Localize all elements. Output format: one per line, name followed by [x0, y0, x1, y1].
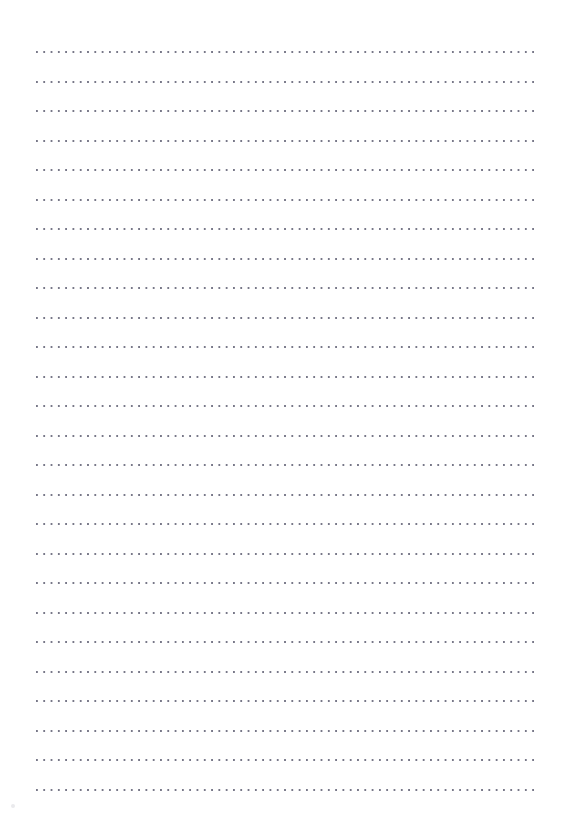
- ruled-line[interactable]: [36, 140, 536, 142]
- ruled-line[interactable]: [36, 346, 536, 348]
- ruled-line[interactable]: [36, 671, 536, 673]
- ruled-line[interactable]: [36, 376, 536, 378]
- ruled-line[interactable]: [36, 523, 536, 525]
- ruled-line[interactable]: [36, 317, 536, 319]
- ruled-line[interactable]: [36, 759, 536, 761]
- ruled-line[interactable]: [36, 405, 536, 407]
- ruled-line[interactable]: [36, 494, 536, 496]
- ruled-line[interactable]: [36, 110, 536, 112]
- ruled-line[interactable]: [36, 435, 536, 437]
- ruled-line[interactable]: [36, 287, 536, 289]
- ruled-line[interactable]: [36, 169, 536, 171]
- ruled-line[interactable]: [36, 228, 536, 230]
- ruled-line[interactable]: [36, 582, 536, 584]
- ruled-line[interactable]: [36, 81, 536, 83]
- ruled-line[interactable]: [36, 700, 536, 702]
- writing-paper-page: [0, 0, 572, 827]
- ruled-line[interactable]: [36, 612, 536, 614]
- ruled-line[interactable]: [36, 464, 536, 466]
- ruled-line[interactable]: [36, 641, 536, 643]
- scan-speck-artifact: [11, 804, 15, 808]
- ruled-line[interactable]: [36, 730, 536, 732]
- ruled-line[interactable]: [36, 258, 536, 260]
- ruled-writing-area[interactable]: [0, 0, 572, 827]
- ruled-line[interactable]: [36, 553, 536, 555]
- ruled-line[interactable]: [36, 51, 536, 53]
- ruled-line[interactable]: [36, 199, 536, 201]
- ruled-line[interactable]: [36, 789, 536, 791]
